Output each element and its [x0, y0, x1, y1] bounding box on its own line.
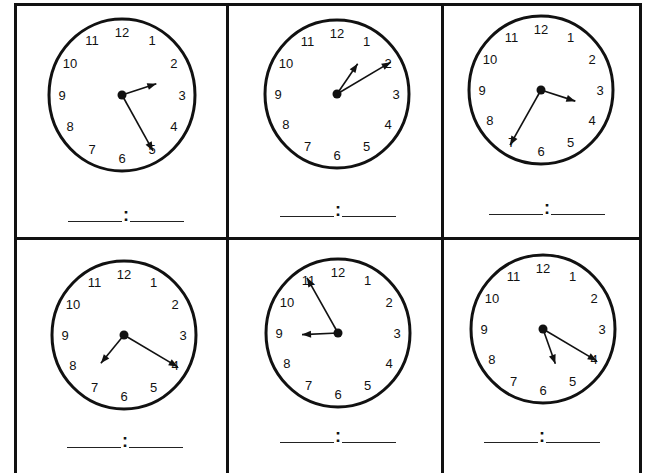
clock-numeral: 3 — [598, 322, 605, 337]
clock-numeral: 2 — [590, 291, 597, 306]
minute-blank[interactable] — [546, 441, 600, 443]
clock-numeral: 10 — [485, 291, 499, 306]
clock-numeral: 8 — [488, 352, 495, 367]
clock-numeral: 5 — [569, 374, 576, 389]
colon-separator: : — [539, 429, 545, 443]
clock-center-dot — [539, 325, 548, 334]
clock-numeral: 6 — [539, 383, 546, 398]
clock-numeral: 7 — [510, 374, 517, 389]
clock-numeral: 1 — [569, 269, 576, 284]
clock-numeral: 11 — [507, 269, 521, 284]
time-answer-field[interactable]: : — [484, 429, 600, 443]
clock-numeral: 9 — [480, 322, 487, 337]
hour-blank[interactable] — [484, 441, 538, 443]
clock-numeral: 12 — [536, 261, 550, 276]
